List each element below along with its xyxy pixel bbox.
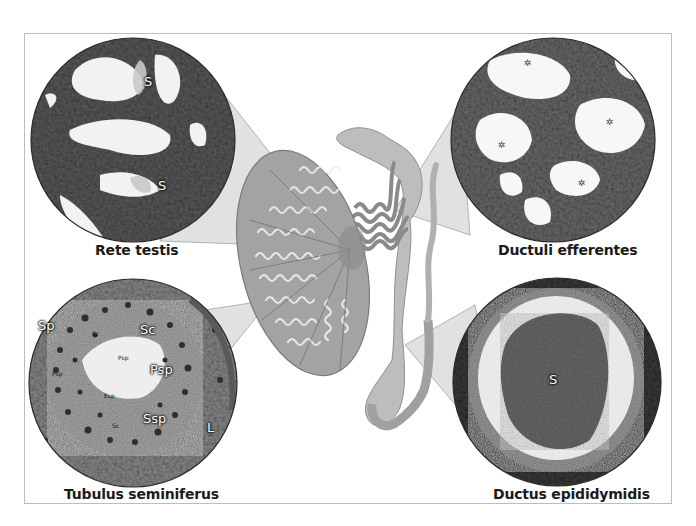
inset-tubulus-seminiferus-image	[29, 279, 237, 487]
lumen-marker-2: ✲	[606, 117, 614, 127]
small-marker-psp-1: Psp	[118, 354, 128, 361]
marker-sp: Sp	[38, 318, 55, 333]
lumen-marker-3: ✲	[498, 140, 506, 150]
lumen-marker-1: ✲	[524, 58, 532, 68]
small-marker-psp-2: Psp	[52, 370, 62, 377]
marker-s-1: S	[144, 74, 152, 89]
small-marker-esp: Esp	[104, 392, 115, 399]
marker-s-2: S	[158, 178, 166, 193]
caption-ductus-epididymidis: Ductus epididymidis	[493, 486, 650, 502]
caption-ductuli-efferentes: Ductuli efferentes	[498, 242, 637, 258]
marker-l: L	[207, 420, 214, 435]
marker-psp: Psp	[150, 362, 173, 377]
caption-rete-testis: Rete testis	[95, 242, 178, 258]
caption-tubulus-seminiferus: Tubulus seminiferus	[64, 486, 219, 502]
inset-ductuli-efferentes-image	[451, 38, 655, 242]
small-marker-sc-2: Sc	[92, 330, 99, 337]
rete-region	[338, 226, 366, 270]
lumen-marker-4: ✲	[578, 178, 586, 188]
anatomy-illustration	[0, 0, 696, 526]
small-marker-sc-1: Sc	[112, 422, 119, 429]
marker-ssp: Ssp	[143, 411, 166, 426]
inset-rete-testis-image	[31, 38, 235, 242]
marker-s-epididymis: S	[549, 372, 557, 387]
marker-sc: Sc	[140, 322, 155, 337]
